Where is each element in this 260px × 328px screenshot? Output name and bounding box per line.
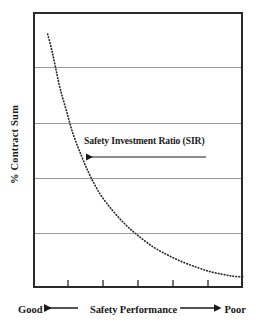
x-axis-caption: Good Safety Performance Poor	[18, 299, 246, 319]
x-caption-middle-group: Safety Performance	[43, 304, 225, 315]
y-axis-label-text: % Contract Sum	[10, 104, 21, 183]
gridline-20	[35, 233, 241, 234]
plot-area	[33, 12, 243, 288]
x-caption-good: Good	[18, 304, 43, 315]
x-caption-poor: Poor	[224, 304, 246, 315]
gridline-80	[35, 67, 241, 68]
chart-figure: % Contract Sum	[0, 0, 260, 328]
y-axis-label: % Contract Sum	[0, 0, 30, 288]
x-caption-safety-performance: Safety Performance	[90, 304, 177, 315]
gridline-60	[35, 123, 241, 124]
gridline-40	[35, 178, 241, 179]
